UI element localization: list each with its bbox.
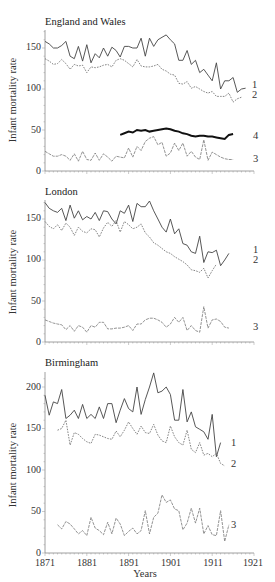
y-axis-label: Infant mortality rate [7,57,18,142]
panel-title: Birmingham [45,357,98,368]
svg-text:0: 0 [36,165,41,176]
series-4-line [120,128,233,139]
svg-text:200: 200 [26,381,41,392]
svg-text:150: 150 [26,212,41,223]
svg-text:1891: 1891 [119,557,139,568]
series-1-line [45,35,246,92]
series-3-line [58,495,229,542]
series-label-2: 2 [231,458,236,469]
svg-text:1881: 1881 [77,557,97,568]
svg-text:50: 50 [31,124,41,135]
series-label-3: 3 [253,153,258,164]
y-ticks: 0 50 100 150 200 [26,381,41,558]
series-label-2: 2 [253,254,258,265]
svg-text:100: 100 [26,253,41,264]
svg-text:1921: 1921 [243,557,263,568]
x-axis-label: Years [133,568,156,579]
y-axis-label: Infant mortality rate [7,229,18,314]
svg-text:100: 100 [26,464,41,475]
minor-ticks [42,379,254,556]
y-ticks: 0 50 100 150 [26,212,41,347]
panel-birmingham: Birmingham Infant mortality rate 0 50 10… [7,357,263,579]
series-1-line [45,201,229,266]
svg-text:0: 0 [36,336,41,347]
panel-title: London [45,186,78,197]
x-tick-labels: 1871 1881 1891 1901 1911 1921 [35,557,263,568]
svg-text:50: 50 [31,505,41,516]
series-1-line [45,373,221,457]
y-ticks: 0 50 100 150 [26,41,41,176]
svg-text:1911: 1911 [203,557,223,568]
series-label-2: 2 [252,89,257,100]
svg-text:50: 50 [31,295,41,306]
svg-text:1901: 1901 [161,557,181,568]
series-label-3: 3 [253,321,258,332]
series-2-line [45,221,216,278]
svg-text:100: 100 [26,82,41,93]
svg-text:1871: 1871 [35,557,55,568]
panel-london: London Infant mortality rate 0 50 100 15… [7,186,258,347]
panel-england-wales: England and Wales Infant mortality rate … [7,16,259,176]
svg-text:150: 150 [26,422,41,433]
svg-text:150: 150 [26,41,41,52]
minor-ticks [42,32,254,174]
series-3-line [45,307,229,333]
series-label-3: 3 [231,519,236,530]
series-2-line [58,420,225,466]
panel-title: England and Wales [45,16,126,27]
mortality-figure: England and Wales Infant mortality rate … [0,0,275,582]
series-3-line [45,137,233,162]
y-axis-label: Infant mortality rate [7,422,18,507]
series-label-4: 4 [253,130,259,141]
series-label-1: 1 [231,437,236,448]
